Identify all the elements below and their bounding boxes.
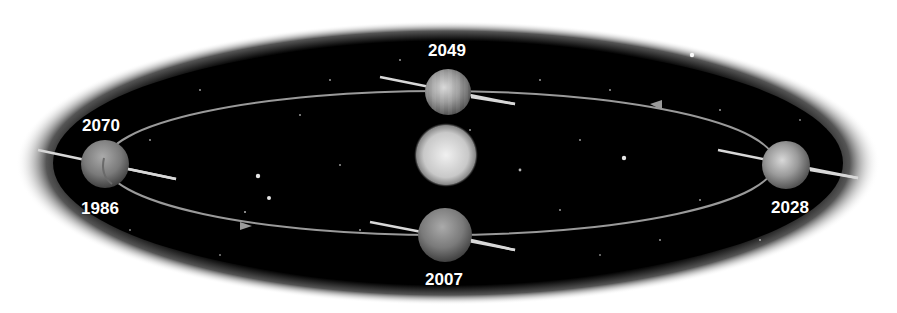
year-label-bottom: 2007: [425, 271, 463, 288]
year-label-right: 2028: [771, 199, 809, 216]
year-label-left-lower: 1986: [81, 200, 119, 217]
sun: [414, 123, 478, 187]
orbit-diagram: 2049 2070 1986 2007 2028: [0, 0, 897, 313]
year-label-left-upper: 2070: [82, 117, 120, 134]
year-label-top: 2049: [428, 42, 466, 59]
